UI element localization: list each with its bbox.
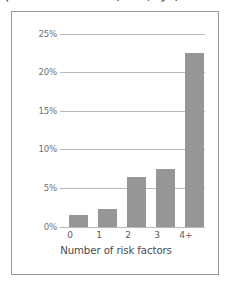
ytick-label-10: 10% [17, 144, 57, 154]
x-axis-title: Number of risk factors [12, 245, 220, 256]
caption-strip: prevalence characteristics (Table ?; Fig… [0, 0, 231, 8]
caption-text: prevalence characteristics (Table ?; Fig… [6, 0, 178, 2]
bar-series [60, 12, 205, 227]
ytick-label-5: 5% [17, 183, 57, 193]
ytick-label-20: 20% [17, 67, 57, 77]
ytick-label-25: 25% [17, 29, 57, 39]
bar-1[interactable] [98, 209, 117, 227]
bar-2[interactable] [127, 177, 146, 227]
figure-frame: 25% 20% 15% 10% 5% 0% 0 1 2 3 4+ Number … [11, 11, 219, 275]
axis-baseline-0 [60, 227, 205, 228]
xtick-label-1: 1 [84, 230, 114, 240]
ytick-label-15: 15% [17, 106, 57, 116]
xtick-label-3: 3 [142, 230, 172, 240]
xtick-label-2: 2 [113, 230, 143, 240]
bar-0[interactable] [69, 215, 88, 227]
ytick-label-0: 0% [17, 222, 57, 232]
bar-4[interactable] [185, 53, 204, 227]
xtick-label-0: 0 [55, 230, 85, 240]
bar-3[interactable] [156, 169, 175, 227]
xtick-label-4plus: 4+ [171, 230, 201, 240]
bar-chart-plot: 25% 20% 15% 10% 5% 0% 0 1 2 3 4+ Number … [12, 12, 220, 276]
